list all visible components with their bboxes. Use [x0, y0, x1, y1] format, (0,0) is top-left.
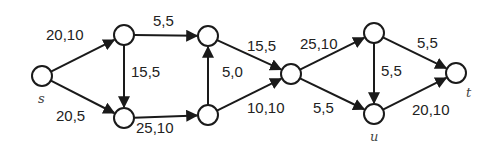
node-label-s: s: [38, 91, 45, 106]
edge-label-s-b: 20,5: [56, 107, 85, 124]
edge-label-a-b: 15,5: [131, 63, 160, 80]
edge-b-d: [134, 115, 197, 117]
edge-label-e-f: 25,10: [300, 35, 338, 52]
node-label-u: u: [370, 129, 378, 144]
node-b: [114, 108, 134, 128]
edge-label-d-e: 10,10: [247, 99, 285, 116]
node-t: [446, 63, 466, 83]
edge-labels-group: 20,1020,55,515,525,105,015,510,1025,105,…: [46, 12, 450, 136]
edge-label-b-d: 25,10: [136, 119, 174, 136]
node-f: [364, 23, 384, 43]
edge-label-a-c: 5,5: [153, 12, 174, 29]
flow-network-diagram: 20,1020,55,515,525,105,015,510,1025,105,…: [0, 0, 495, 148]
node-a: [114, 25, 134, 45]
edge-label-f-t: 5,5: [417, 34, 438, 51]
node-s: [32, 66, 52, 86]
edge-label-d-c: 5,0: [222, 63, 243, 80]
node-d: [198, 105, 218, 125]
edge-a-c: [134, 35, 197, 36]
node-e: [281, 64, 301, 84]
edge-label-c-e: 15,5: [247, 37, 276, 54]
edge-label-s-a: 20,10: [46, 26, 84, 43]
edge-label-u-t: 20,10: [412, 101, 450, 118]
node-c: [198, 26, 218, 46]
edge-label-f-u: 5,5: [381, 62, 402, 79]
edge-label-e-u: 5,5: [313, 99, 334, 116]
edge-s-a: [51, 40, 114, 72]
node-label-t: t: [466, 85, 472, 100]
node-u: [364, 104, 384, 124]
